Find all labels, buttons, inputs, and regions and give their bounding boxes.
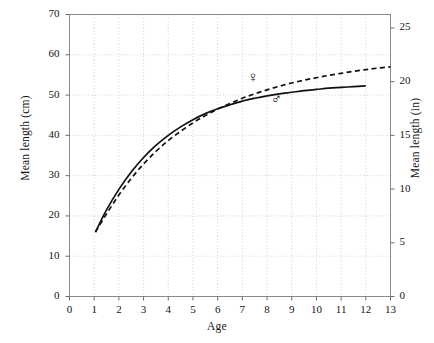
y-axis-right-tick-label: 0: [400, 289, 430, 301]
series-lines: [95, 67, 390, 232]
x-axis-title: Age: [0, 320, 434, 332]
x-axis-tick-label: 7: [230, 303, 254, 315]
x-axis-tick-label: 5: [181, 303, 205, 315]
x-axis-tick-label: 4: [156, 303, 180, 315]
y-axis-left-tick-label: 60: [30, 47, 60, 59]
y-axis-left-tick-label: 30: [30, 168, 60, 180]
y-axis-left-tick-label: 0: [30, 289, 60, 301]
chart-canvas: [0, 0, 434, 343]
x-axis-tick-label: 0: [58, 303, 82, 315]
female-symbol-icon: ♀: [247, 70, 258, 85]
y-axis-left-tick-label: 50: [30, 88, 60, 100]
x-axis-tick-label: 2: [107, 303, 131, 315]
chart-figure: 010203040506070 0510152025 0123456789101…: [0, 0, 434, 343]
tick-marks: [66, 15, 395, 301]
y-axis-left-tick-label: 40: [30, 128, 60, 140]
male-symbol-icon: ♂: [271, 92, 282, 107]
x-axis-tick-label: 8: [255, 303, 279, 315]
x-axis-tick-label: 13: [379, 303, 403, 315]
x-axis-tick-label: 3: [132, 303, 156, 315]
series-curve-female: [95, 67, 390, 232]
x-axis-tick-label: 9: [280, 303, 304, 315]
y-axis-right-title: Mean length (in): [409, 68, 421, 208]
series-curve-male: [95, 86, 365, 232]
x-axis-tick-label: 1: [82, 303, 106, 315]
y-axis-left-tick-label: 20: [30, 208, 60, 220]
y-axis-left-tick-label: 10: [30, 249, 60, 261]
y-axis-right-tick-label: 5: [400, 235, 430, 247]
x-axis-tick-label: 6: [206, 303, 230, 315]
y-axis-left-tick-label: 70: [30, 7, 60, 19]
plot-frame: [70, 15, 391, 297]
y-axis-left-title: Mean length (cm): [19, 68, 31, 208]
x-axis-tick-label: 10: [304, 303, 328, 315]
y-axis-right-tick-label: 25: [400, 20, 430, 32]
gridlines: [70, 15, 391, 297]
x-axis-tick-label: 12: [354, 303, 378, 315]
x-axis-tick-label: 11: [329, 303, 353, 315]
